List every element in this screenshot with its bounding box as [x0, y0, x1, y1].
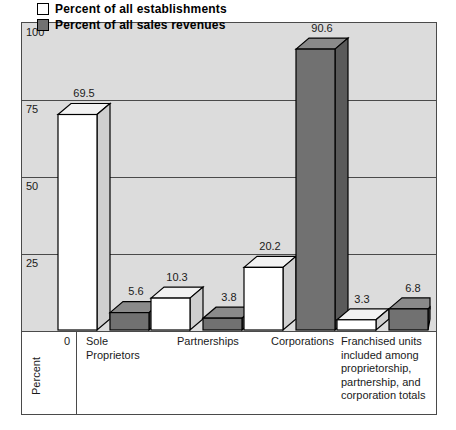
category-label-line: Franchised units — [341, 335, 437, 349]
chart-figure: 100 75 50 25 — [0, 0, 456, 430]
legend-swatch-dark-icon — [37, 19, 49, 31]
category-label-line: included among — [341, 349, 437, 363]
legend-swatch-light-icon — [37, 3, 49, 15]
y-tick-25: 25 — [26, 257, 38, 270]
y-tick-50: 50 — [26, 180, 38, 193]
gridline-25 — [22, 254, 436, 255]
category-label-line: partnership, and — [341, 376, 437, 390]
legend-label-establishments: Percent of all establishments — [55, 2, 227, 16]
category-label-line: proprietorship, — [341, 362, 437, 376]
category-label-sole-proprietors: Sole Proprietors — [86, 335, 176, 362]
gridline-50 — [22, 177, 436, 178]
category-label-area: 0 Percent Sole Proprietors Partnerships … — [21, 332, 437, 415]
category-label-partnerships: Partnerships — [177, 335, 277, 349]
category-label-line: Sole — [86, 335, 176, 349]
y-axis-title: Percent — [30, 345, 42, 407]
y-tick-75: 75 — [26, 103, 38, 116]
category-label-franchised-units: Franchised units included among propriet… — [341, 335, 437, 403]
legend-item-revenues: Percent of all sales revenues — [37, 17, 227, 32]
category-label-line: corporation totals — [341, 389, 437, 403]
category-label-line: Proprietors — [86, 349, 176, 363]
chart-legend: Percent of all establishments Percent of… — [37, 1, 227, 32]
gridline-75 — [22, 100, 436, 101]
plot-area: 100 75 50 25 — [21, 22, 437, 332]
legend-item-establishments: Percent of all establishments — [37, 1, 227, 16]
y-tick-0: 0 — [40, 335, 70, 347]
axis-divider — [76, 332, 77, 414]
legend-label-revenues: Percent of all sales revenues — [55, 18, 226, 32]
category-label-line: Partnerships — [177, 335, 277, 349]
